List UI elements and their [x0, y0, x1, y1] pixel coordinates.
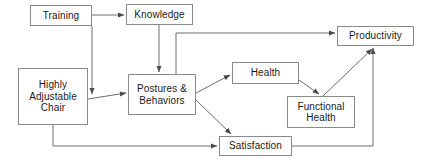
node-satisfaction[interactable]: Satisfaction [219, 136, 292, 156]
node-postures-and-behaviors[interactable]: Postures & Behaviors [128, 74, 196, 115]
diagram-canvas: Training Knowledge Highly Adjustable Cha… [0, 0, 431, 165]
edge-chair-postures [88, 93, 126, 99]
node-training[interactable]: Training [30, 5, 92, 26]
edge-functional-productivity [323, 49, 372, 96]
edge-postures-health [196, 75, 230, 93]
edge-postures-satisfaction [196, 100, 231, 134]
node-functional-health[interactable]: Functional Health [287, 96, 355, 128]
node-knowledge[interactable]: Knowledge [126, 4, 193, 25]
edge-health-functional [299, 80, 319, 94]
node-highly-adjustable-chair[interactable]: Highly Adjustable Chair [18, 68, 88, 125]
node-productivity[interactable]: Productivity [337, 26, 414, 46]
node-health[interactable]: Health [232, 62, 299, 84]
edge-chair-satisfaction [53, 125, 217, 146]
